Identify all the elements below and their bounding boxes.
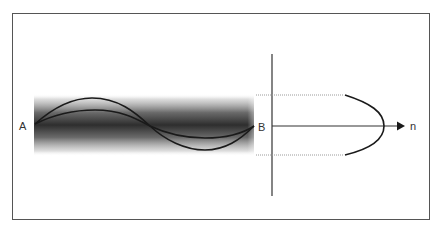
label-b: B <box>258 121 265 133</box>
label-n: n <box>410 120 416 132</box>
fiber-mode-diagram: A B n <box>0 0 440 232</box>
label-a: A <box>19 120 27 132</box>
